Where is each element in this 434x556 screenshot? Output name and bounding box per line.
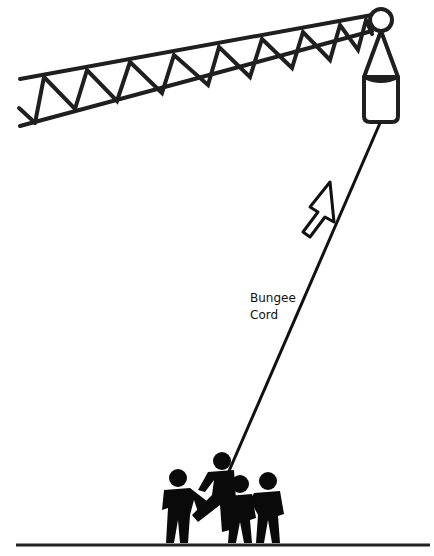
cord-label-line1: Bungee (250, 290, 296, 307)
person-right-2 (250, 472, 284, 543)
diagram-canvas (0, 0, 434, 556)
up-arrow-icon (303, 182, 334, 237)
cord-label: Bungee Cord (250, 290, 296, 324)
people (162, 452, 284, 543)
pulley-icon (370, 9, 392, 31)
cord-label-line2: Cord (250, 307, 296, 324)
person-center (192, 452, 236, 532)
crane-boom (19, 15, 372, 126)
counterweight (364, 31, 398, 122)
